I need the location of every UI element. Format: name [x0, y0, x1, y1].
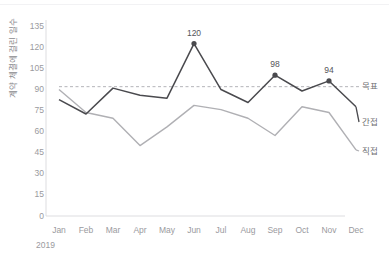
data-point-marker [272, 73, 277, 78]
data-point-marker [191, 41, 196, 46]
x-tick-jun: Jun [179, 226, 209, 235]
legend-label-direct: 직접 [362, 147, 378, 156]
data-point-marker [326, 78, 331, 83]
x-tick-jul: Jul [206, 226, 236, 235]
data-label-sep: 98 [262, 60, 288, 69]
x-tick-feb: Feb [71, 226, 101, 235]
x-tick-jan: Jan [44, 226, 74, 235]
x-tick-apr: Apr [125, 226, 155, 235]
line-chart: 계약 체결에 걸린 일수 135 120 105 90 75 60 45 30 … [0, 0, 389, 262]
series-line-indirect [59, 44, 356, 114]
x-tick-mar: Mar [98, 226, 128, 235]
x-axis-year: 2019 [36, 240, 55, 250]
x-tick-aug: Aug [233, 226, 263, 235]
data-label-jun: 120 [181, 29, 207, 38]
x-tick-oct: Oct [287, 226, 317, 235]
x-tick-dec: Dec [341, 226, 371, 235]
leader-line-indirect [356, 107, 359, 122]
legend-label-target: 목표 [362, 82, 378, 91]
leader-line-direct [356, 150, 359, 151]
x-tick-sep: Sep [260, 226, 290, 235]
x-tick-may: May [152, 226, 182, 235]
plot-area [0, 0, 389, 262]
legend-label-indirect: 간접 [362, 118, 378, 127]
series-line-direct [59, 90, 356, 150]
x-tick-nov: Nov [314, 226, 344, 235]
data-label-nov: 94 [316, 66, 342, 75]
